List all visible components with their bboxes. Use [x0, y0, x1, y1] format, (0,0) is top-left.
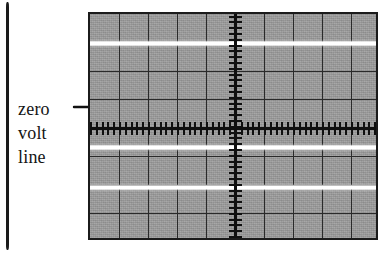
grid-line-vertical [119, 14, 120, 238]
grid-line-vertical [206, 14, 207, 238]
grid-line-vertical [264, 14, 265, 238]
grid-line-horizontal [90, 156, 376, 157]
grid-line-vertical [148, 14, 149, 238]
grid-line-horizontal [90, 99, 376, 100]
signal-trace-middle [90, 145, 376, 150]
signal-trace-upper [90, 41, 376, 46]
grid-line-horizontal [90, 213, 376, 214]
screen-noise-texture [90, 14, 376, 238]
grid-line-vertical [351, 14, 352, 238]
oscilloscope-screen [88, 12, 378, 240]
grid-line-vertical [322, 14, 323, 238]
grid-line-vertical [293, 14, 294, 238]
zero-volt-line [90, 127, 376, 130]
grid-line-vertical [177, 14, 178, 238]
figure-container: zero volt line [0, 0, 392, 260]
grid-line-horizontal [90, 71, 376, 72]
page-left-rule [6, 2, 9, 250]
signal-trace-lower [90, 185, 376, 190]
vertical-center-axis [234, 14, 237, 238]
